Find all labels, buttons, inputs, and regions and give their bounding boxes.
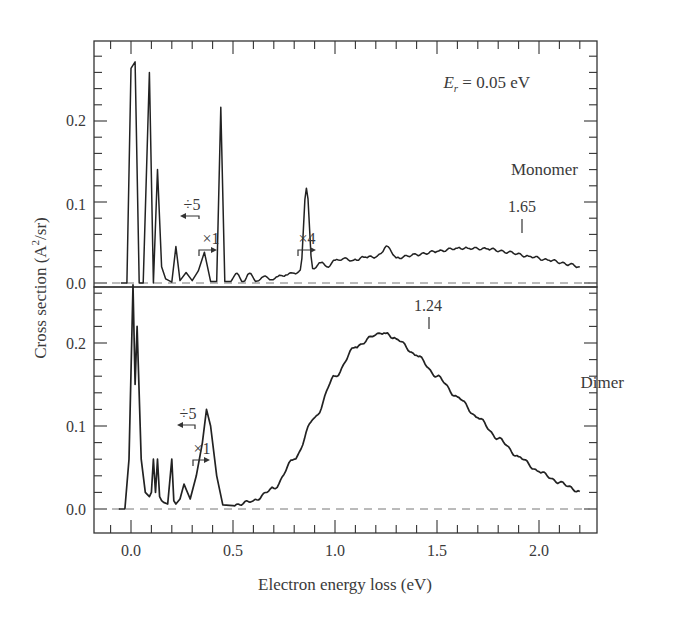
arrow-left-icon — [180, 213, 186, 219]
svg-text:×1: ×1 — [202, 230, 219, 247]
bottom-div5-annotation: ÷5 — [177, 405, 196, 429]
arrow-right-icon — [211, 247, 217, 253]
arrow-right-icon — [204, 457, 210, 463]
y-tick-labels-top: 0.0 0.1 0.2 — [66, 112, 86, 292]
y-tick-label: 0.1 — [66, 418, 86, 435]
x-axis-label: Electron energy loss (eV) — [258, 575, 432, 594]
y-tick-label: 0.2 — [66, 112, 86, 129]
x-ticks-bottom — [111, 520, 580, 533]
svg-text:÷5: ÷5 — [184, 196, 201, 213]
arrow-left-icon — [177, 422, 183, 428]
dimer-curve — [119, 285, 580, 509]
bottom-x1-annotation: ×1 — [193, 440, 211, 466]
x-tick-labels: 0.0 0.5 1.0 1.5 2.0 — [121, 542, 549, 559]
chart: 0.0 0.1 0.2 0.0 0.1 0.2 0.0 0.5 1.0 1.5 … — [0, 0, 696, 617]
y-tick-label: 0.1 — [66, 196, 86, 213]
svg-text:÷5: ÷5 — [180, 405, 197, 422]
monomer-label: Monomer — [511, 160, 578, 179]
top-x4-annotation: ×4 — [298, 230, 316, 256]
dimer-peak-label: 1.24 — [414, 297, 442, 314]
energy-condition-label: Er = 0.05 eV — [442, 73, 530, 94]
top-div5-annotation: ÷5 — [180, 196, 200, 219]
x-tick-label: 1.5 — [427, 542, 447, 559]
x-tick-label: 0.0 — [121, 542, 141, 559]
arrow-right-icon — [310, 247, 316, 253]
x-tick-label: 2.0 — [529, 542, 549, 559]
x-tick-label: 0.5 — [223, 542, 243, 559]
y-tick-label: 0.0 — [66, 501, 86, 518]
x-ticks-top — [111, 41, 580, 54]
top-x1-annotation: ×1 — [199, 230, 220, 256]
x-tick-label: 1.0 — [325, 542, 345, 559]
bottom-panel-frame — [94, 287, 597, 533]
y-tick-labels-bottom: 0.0 0.1 0.2 — [66, 335, 86, 518]
dimer-label: Dimer — [581, 373, 625, 392]
svg-text:×1: ×1 — [193, 440, 210, 457]
y-axis-label: Cross section (A2/sr) — [29, 217, 50, 359]
y-tick-label: 0.0 — [66, 275, 86, 292]
y-tick-label: 0.2 — [66, 335, 86, 352]
svg-text:×4: ×4 — [298, 230, 315, 247]
monomer-peak-label: 1.65 — [508, 198, 536, 215]
